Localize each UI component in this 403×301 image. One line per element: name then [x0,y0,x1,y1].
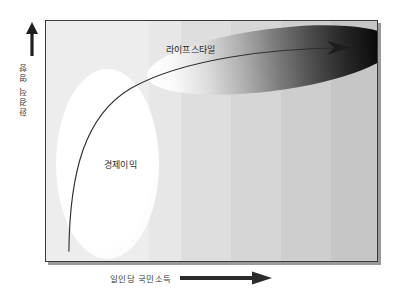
trend-curve [46,21,377,261]
right-arrow-icon [180,271,273,285]
conceptual-diagram: 라이프스타일 경제이익 환경적 영향 일인당 국민소득 [0,0,403,301]
lifestyle-label: 라이프스타일 [166,43,215,56]
plot-area: 라이프스타일 경제이익 [45,20,378,262]
x-axis-group: 일인당 국민소득 [110,271,273,285]
y-axis-label: 환경적 영향 [18,62,32,116]
up-arrow-icon [25,22,39,56]
economic-benefit-label: 경제이익 [104,158,137,171]
x-axis-label: 일인당 국민소득 [110,272,171,284]
